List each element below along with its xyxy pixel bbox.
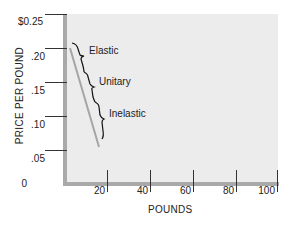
annotation-inelastic: Inelastic — [109, 108, 146, 119]
annotation-unitary: Unitary — [99, 76, 131, 87]
annotation-elastic: Elastic — [89, 45, 118, 56]
